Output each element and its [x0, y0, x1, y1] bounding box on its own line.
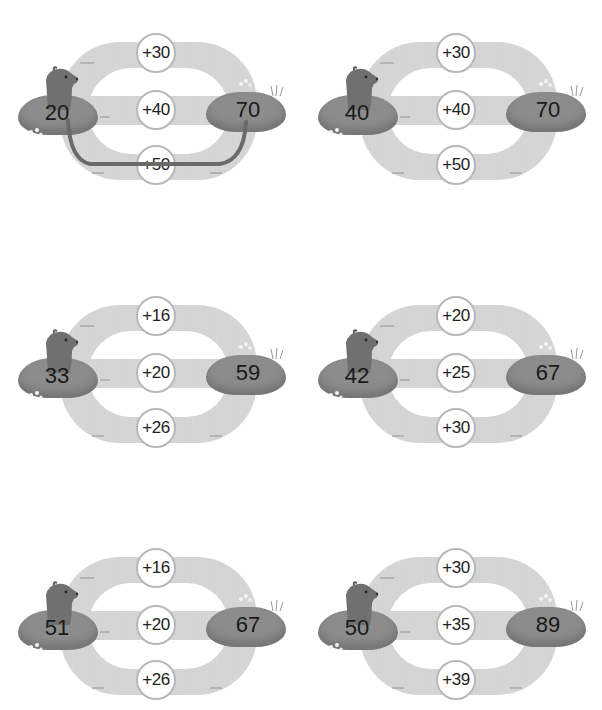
- option-top-circle[interactable]: +30: [136, 33, 176, 73]
- flowers-icon: [328, 389, 344, 401]
- puzzle-panel-5: +16 +20 +26 51 67: [0, 515, 300, 710]
- track-mark: [100, 116, 110, 118]
- track-mark: [380, 62, 394, 64]
- track-mark: [510, 172, 522, 174]
- option-middle-label: +25: [442, 363, 469, 383]
- flowers-icon: [538, 341, 554, 353]
- option-middle-label: +20: [142, 363, 169, 383]
- grass-icon: [570, 347, 586, 359]
- track-mark: [400, 379, 410, 381]
- flowers-icon: [238, 341, 254, 353]
- track-mark: [100, 631, 110, 633]
- option-top-label: +16: [142, 306, 169, 326]
- start-number: 33: [27, 363, 87, 389]
- puzzle-panel-6: +30 +35 +39 50 89: [300, 515, 600, 710]
- option-bottom-label: +39: [442, 670, 469, 690]
- flowers-icon: [538, 78, 554, 90]
- track-mark: [92, 687, 104, 689]
- goal-number: 70: [518, 97, 578, 123]
- flowers-icon: [328, 126, 344, 138]
- start-number: 51: [27, 615, 87, 641]
- start-number: 40: [327, 100, 387, 126]
- option-bottom-label: +26: [142, 670, 169, 690]
- puzzle-panel-4: +20 +25 +30 42 67: [300, 263, 600, 463]
- option-bottom-circle[interactable]: +50: [136, 145, 176, 185]
- track-mark: [80, 62, 94, 64]
- option-middle-label: +20: [142, 615, 169, 635]
- option-bottom-circle[interactable]: +50: [436, 145, 476, 185]
- goal-number: 59: [218, 360, 278, 386]
- grass-icon: [270, 599, 286, 611]
- track-mark: [210, 435, 222, 437]
- goal-number: 89: [518, 612, 578, 638]
- start-number: 42: [327, 363, 387, 389]
- track-mark: [400, 631, 410, 633]
- track-mark: [380, 577, 394, 579]
- track-mark: [380, 325, 394, 327]
- track-mark: [100, 379, 110, 381]
- start-number: 20: [27, 100, 87, 126]
- puzzle-panel-1: +30 +40 +50 20 70: [0, 0, 300, 200]
- track-mark: [92, 172, 104, 174]
- option-middle-label: +40: [142, 100, 169, 120]
- option-bottom-label: +50: [442, 155, 469, 175]
- grass-icon: [270, 84, 286, 96]
- option-middle-circle[interactable]: +20: [136, 605, 176, 645]
- option-bottom-circle[interactable]: +39: [436, 660, 476, 700]
- flowers-icon: [538, 593, 554, 605]
- option-middle-circle[interactable]: +40: [136, 90, 176, 130]
- track-mark: [80, 325, 94, 327]
- option-middle-label: +40: [442, 100, 469, 120]
- flowers-icon: [28, 641, 44, 653]
- option-top-label: +30: [142, 43, 169, 63]
- track-mark: [392, 435, 404, 437]
- option-bottom-circle[interactable]: +26: [136, 660, 176, 700]
- option-middle-circle[interactable]: +20: [136, 353, 176, 393]
- track-mark: [510, 687, 522, 689]
- option-bottom-circle[interactable]: +26: [136, 408, 176, 448]
- option-top-circle[interactable]: +30: [436, 548, 476, 588]
- start-number: 50: [327, 615, 387, 641]
- option-bottom-label: +50: [142, 155, 169, 175]
- puzzle-panel-2: +30 +40 +50 40 70: [300, 0, 600, 200]
- puzzle-panel-3: +16 +20 +26 33 59: [0, 263, 300, 463]
- track-mark: [392, 172, 404, 174]
- flowers-icon: [28, 126, 44, 138]
- flowers-icon: [328, 641, 344, 653]
- option-top-circle[interactable]: +30: [436, 33, 476, 73]
- option-top-label: +30: [442, 43, 469, 63]
- track-mark: [210, 172, 222, 174]
- track-mark: [510, 435, 522, 437]
- option-bottom-label: +30: [442, 418, 469, 438]
- goal-number: 67: [218, 612, 278, 638]
- option-top-label: +20: [442, 306, 469, 326]
- track-mark: [92, 435, 104, 437]
- flowers-icon: [238, 593, 254, 605]
- track-mark: [210, 687, 222, 689]
- flowers-icon: [238, 78, 254, 90]
- grass-icon: [570, 84, 586, 96]
- grass-icon: [270, 347, 286, 359]
- track-mark: [80, 577, 94, 579]
- option-middle-circle[interactable]: +25: [436, 353, 476, 393]
- option-top-label: +30: [442, 558, 469, 578]
- option-top-circle[interactable]: +16: [136, 296, 176, 336]
- track-mark: [392, 687, 404, 689]
- option-top-circle[interactable]: +16: [136, 548, 176, 588]
- option-middle-label: +35: [442, 615, 469, 635]
- grass-icon: [570, 599, 586, 611]
- goal-number: 70: [218, 97, 278, 123]
- goal-number: 67: [518, 360, 578, 386]
- option-bottom-circle[interactable]: +30: [436, 408, 476, 448]
- track-mark: [400, 116, 410, 118]
- option-middle-circle[interactable]: +40: [436, 90, 476, 130]
- option-top-circle[interactable]: +20: [436, 296, 476, 336]
- option-middle-circle[interactable]: +35: [436, 605, 476, 645]
- option-top-label: +16: [142, 558, 169, 578]
- option-bottom-label: +26: [142, 418, 169, 438]
- flowers-icon: [28, 389, 44, 401]
